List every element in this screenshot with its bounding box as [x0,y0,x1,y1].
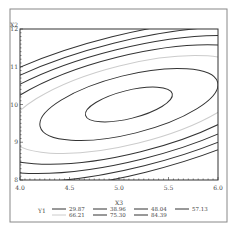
y-axis-label: X2 [10,21,18,28]
x-tick-label: 6.0 [213,184,223,191]
y-tick-label: 9 [14,138,18,145]
legend-label: 75.30 [110,212,126,218]
x-tick-label: 4.5 [65,184,75,191]
legend-label: 66.21 [69,212,85,218]
legend-label: 57.13 [192,206,208,212]
legend-label: 84.39 [151,212,167,218]
y-tick-label: 11 [10,63,18,70]
x-tick-label: 5.0 [114,184,124,191]
x-tick-label: 5.5 [164,184,174,191]
x-axis-label: X3 [115,199,123,206]
x-tick-label: 4.0 [15,184,25,191]
contour-chart: 4.04.55.05.56.0 89101112 X3 X2 Y1 29.873… [0,0,234,227]
y-tick-label: 10 [10,101,18,108]
y-tick-label: 8 [14,176,18,183]
legend-title: Y1 [37,207,46,214]
